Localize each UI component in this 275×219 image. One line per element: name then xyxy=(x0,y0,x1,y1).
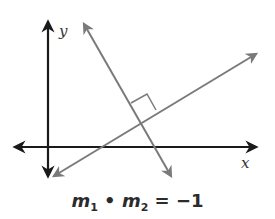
y-axis-label: y xyxy=(58,22,68,40)
slope-sub-2: 2 xyxy=(141,201,149,214)
right-angle-marker xyxy=(131,94,156,110)
coordinate-diagram: y x xyxy=(0,0,275,219)
line-1-positive-slope xyxy=(54,54,256,176)
equation-result: −1 xyxy=(176,190,204,211)
equals-sign: = xyxy=(155,190,170,211)
x-axis-label: x xyxy=(241,154,250,172)
line-2-negative-slope xyxy=(84,24,171,176)
slope-var-1: m xyxy=(71,190,90,211)
slope-sub-1: 1 xyxy=(90,201,98,214)
multiply-operator: • xyxy=(104,190,116,211)
slope-product-equation: m1 • m2 = −1 xyxy=(0,190,275,214)
slope-var-2: m xyxy=(122,190,141,211)
